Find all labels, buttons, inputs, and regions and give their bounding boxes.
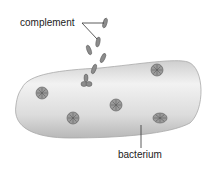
bacterium-body [16, 61, 201, 138]
pore-icon [151, 64, 163, 76]
complement-label: complement [20, 17, 74, 28]
pore-icon [36, 87, 48, 99]
pore-icon [67, 112, 79, 124]
bacterium-label: bacterium [118, 149, 162, 160]
pore-icon [153, 113, 167, 123]
pore-icon [110, 99, 122, 111]
